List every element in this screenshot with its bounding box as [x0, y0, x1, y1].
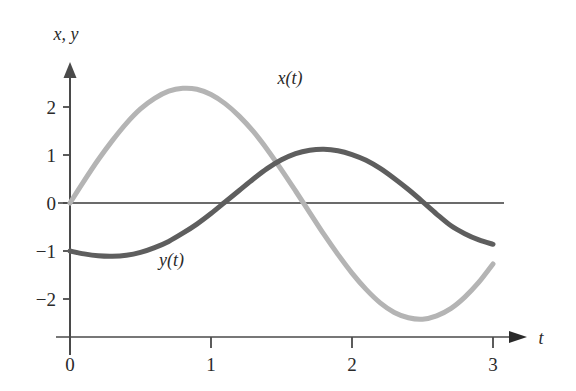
- label-group: x, ytx(t)y(t): [53, 24, 545, 348]
- x-tick-label-2: 2: [347, 354, 357, 375]
- figure-container: 210−1−20123 x, ytx(t)y(t): [0, 0, 576, 391]
- x-tick-label-3: 3: [488, 354, 498, 375]
- horizontal-axis-arrowhead: [509, 331, 527, 343]
- x-curve-label: x(t): [276, 68, 302, 89]
- x-tick-label-1: 1: [206, 354, 216, 375]
- y-axis-title: x, y: [53, 24, 79, 44]
- x-tick-label-0: 0: [65, 354, 75, 375]
- tick-group: 210−1−20123: [36, 97, 498, 376]
- x-axis-title: t: [538, 328, 544, 348]
- y-tick-label-1: 1: [47, 145, 57, 166]
- y-tick-label-2: 0: [47, 193, 57, 214]
- y-curve-label: y(t): [157, 250, 184, 271]
- vertical-axis-arrowhead: [64, 62, 77, 78]
- y-tick-label-4: −2: [36, 289, 56, 310]
- y-tick-label-3: −1: [36, 241, 56, 262]
- axes-group: [56, 62, 527, 355]
- chart-canvas: 210−1−20123 x, ytx(t)y(t): [0, 0, 576, 391]
- y-tick-label-0: 2: [47, 97, 57, 118]
